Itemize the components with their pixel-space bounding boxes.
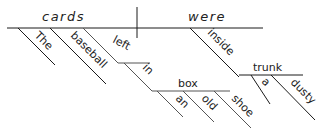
subject-word: cards <box>42 9 85 24</box>
modifier-baseball: baseball <box>68 29 110 71</box>
modifier-shoe: shoe <box>229 92 257 120</box>
sentence-diagram: cards were The baseball left in box an o… <box>0 0 327 135</box>
object-trunk: trunk <box>253 61 283 74</box>
modifier-the: The <box>31 28 56 53</box>
verb-word: were <box>188 9 226 24</box>
modifier-a: a <box>259 75 273 89</box>
modifier-dusty: dusty <box>288 76 319 107</box>
object-box: box <box>178 77 198 90</box>
modifier-an: an <box>173 92 192 111</box>
participle-left: left <box>111 33 133 53</box>
prep-inside: inside <box>205 26 237 58</box>
